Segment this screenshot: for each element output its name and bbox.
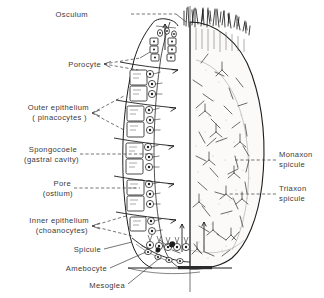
label-porocyte: Porocyte bbox=[68, 60, 101, 69]
label-monaxon: Monaxon bbox=[279, 150, 313, 159]
wall-segment bbox=[130, 217, 163, 235]
label-monaxon-sub: spicule bbox=[279, 160, 305, 169]
label-mesoglea: Mesoglea bbox=[89, 281, 125, 290]
label-inner-epithelium: Inner epithelium bbox=[29, 216, 89, 225]
label-outer-epithelium: Outer epithelium bbox=[28, 103, 89, 112]
base-attachment bbox=[128, 266, 232, 274]
label-osculum: Osculum bbox=[56, 10, 88, 19]
label-amebocyte: Amebocyte bbox=[66, 264, 107, 273]
label-inner-epithelium-sub: (choanocytes) bbox=[36, 226, 88, 235]
osculum-opening bbox=[150, 19, 178, 61]
label-spicule: Spicule bbox=[74, 245, 101, 254]
label-outer-epithelium-sub: ( pinacocytes ) bbox=[32, 113, 87, 122]
diagram-canvas: Osculum Porocyte Outer epithelium ( pina… bbox=[0, 0, 324, 298]
sponge-anatomy-figure: Osculum Porocyte Outer epithelium ( pina… bbox=[0, 0, 324, 298]
label-triaxon-sub: spicule bbox=[279, 194, 305, 203]
label-pore: Pore bbox=[54, 179, 71, 188]
label-spongocoele: Spongocoele bbox=[29, 145, 77, 154]
label-pore-sub: (ostium) bbox=[43, 189, 73, 198]
sponge-exterior-body bbox=[190, 22, 264, 269]
label-spongocoele-sub: (gastral cavity) bbox=[24, 155, 79, 164]
basal-choanocyte-row bbox=[146, 235, 189, 251]
wall-cell-stacks bbox=[126, 70, 190, 264]
label-triaxon: Triaxon bbox=[279, 184, 307, 193]
